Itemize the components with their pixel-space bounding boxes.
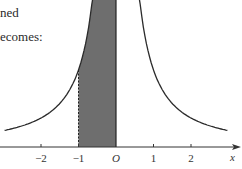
curve-right-branch	[134, 0, 227, 130]
tick-label: −1	[73, 152, 85, 164]
tick-label: 2	[188, 152, 194, 164]
tick-label: 1	[151, 152, 157, 164]
area-under-curve-figure: −2−112 O x	[0, 0, 242, 169]
shaded-region	[79, 0, 117, 147]
x-axis-label: x	[229, 151, 235, 163]
tick-label: −2	[35, 152, 47, 164]
origin-label: O	[112, 152, 120, 164]
